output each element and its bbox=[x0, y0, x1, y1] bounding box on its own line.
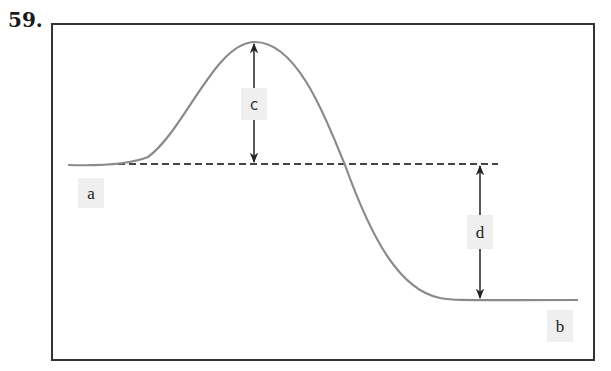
label-b: b bbox=[556, 317, 565, 336]
energy-curve bbox=[68, 42, 578, 300]
label-c: c bbox=[250, 96, 258, 114]
energy-diagram: c d a b bbox=[0, 0, 611, 371]
label-a: a bbox=[87, 184, 95, 203]
diagram-frame bbox=[52, 24, 594, 360]
label-d: d bbox=[476, 223, 485, 242]
